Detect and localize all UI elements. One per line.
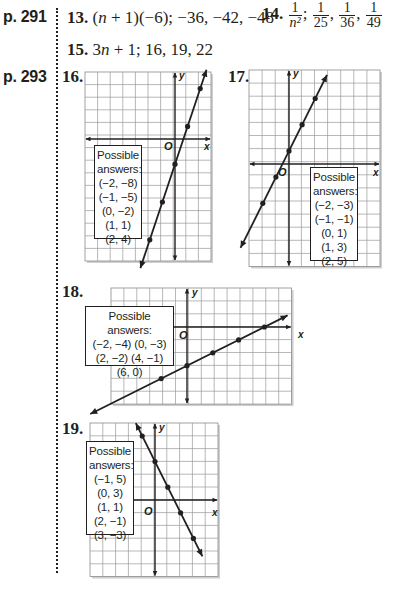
plotted-point (185, 124, 190, 129)
denominator: 25 (313, 16, 329, 30)
box-line: (−1, −1) (313, 212, 355, 226)
box-line: Possible (97, 148, 139, 162)
origin-label: O (278, 166, 287, 178)
plotted-point (178, 510, 183, 515)
denominator: n² (289, 16, 302, 30)
x-axis-label: x (204, 141, 210, 152)
box-line: (−2, −8) (97, 176, 139, 190)
box-line: (2, 4) (97, 232, 139, 246)
numerator: 1 (366, 1, 382, 16)
separator: , (330, 4, 334, 23)
y-axis-label: y (159, 422, 165, 433)
box-line: answers: (313, 184, 355, 198)
page-label-291: p. 291 (3, 8, 47, 26)
graph-number-19: 19. (62, 419, 83, 439)
box-line: (3, −3) (89, 528, 131, 542)
denominator: 49 (366, 16, 382, 30)
box-line: (2, 5) (313, 254, 355, 268)
possible-answers-box: Possible answers: (−1, 5) (0, 3) (1, 1) … (86, 441, 134, 535)
box-line: answers: (97, 162, 139, 176)
box-line: Possible (313, 170, 355, 184)
x-axis-label: x (212, 507, 218, 518)
section-divider (56, 8, 58, 573)
fraction: 149 (366, 1, 382, 30)
plotted-point (236, 337, 241, 342)
possible-answers-box: Possible answers: (−2, −8) (−1, −5) (0, … (94, 145, 142, 239)
expr-part: 3 (93, 40, 102, 59)
graph-number-17: 17. (228, 67, 249, 87)
plotted-point (262, 324, 267, 329)
fraction: 1n² (289, 1, 302, 30)
box-line: (0, 3) (89, 486, 131, 500)
y-axis-label: y (293, 68, 299, 79)
variable-n: n (101, 40, 110, 59)
plotted-point (184, 363, 189, 368)
plotted-point (313, 96, 318, 101)
box-line: Possible (89, 444, 131, 458)
graph-number-18: 18. (62, 282, 83, 302)
plotted-point (198, 86, 203, 91)
expr-part: + 1; 16, 19, 22 (110, 40, 214, 59)
box-line: (2, −1) (89, 514, 131, 528)
box-line: (−2, −3) (313, 198, 355, 212)
expr-part: + 1)(−6); −36, −42, −48 (107, 8, 274, 27)
numerator: 1 (339, 1, 355, 16)
denominator: 36 (339, 16, 355, 30)
box-line: (1, 1) (97, 218, 139, 232)
box-line: (−1, −5) (97, 190, 139, 204)
answer-13: 13. (n + 1)(−6); −36, −42, −48 (67, 8, 274, 28)
separator: , (356, 4, 360, 23)
answer-number: 14. (262, 4, 283, 23)
y-axis-label: y (192, 287, 198, 298)
fraction: 136 (339, 1, 355, 30)
plotted-point (165, 485, 170, 490)
numerator: 1 (313, 1, 329, 16)
page-label-293: p. 293 (3, 68, 47, 86)
plotted-point (152, 459, 157, 464)
possible-answers-box: Possible answers: (−2, −4) (0, −3) (2, −… (85, 306, 174, 366)
origin-label: O (164, 140, 173, 152)
plotted-point (160, 199, 165, 204)
variable-n: n (98, 8, 107, 27)
box-line: (2, −2) (4, −1) (88, 351, 171, 365)
plotted-point (286, 148, 291, 153)
answer-15: 15. 3n + 1; 16, 19, 22 (67, 40, 213, 60)
separator: ; (303, 4, 308, 23)
box-line: Possible answers: (88, 309, 171, 337)
box-line: (6, 0) (88, 365, 171, 379)
x-axis-label: x (298, 329, 304, 340)
y-axis-label: y (179, 70, 185, 81)
answer-number: 13. (67, 8, 88, 27)
plotted-point (210, 350, 215, 355)
plotted-point (147, 237, 152, 242)
box-line: (0, 1) (313, 226, 355, 240)
fraction: 125 (313, 1, 329, 30)
answer-number: 15. (67, 40, 88, 59)
box-line: (1, 1) (89, 500, 131, 514)
box-line: answers: (89, 458, 131, 472)
graph-number-16: 16. (62, 67, 83, 87)
box-line: (−2, −4) (0, −3) (88, 337, 171, 351)
origin-label: O (179, 329, 188, 341)
answer-14: 14. 1n²; 125, 136, 149 (262, 1, 383, 30)
origin-label: O (144, 505, 153, 517)
plotted-point (260, 201, 265, 206)
possible-answers-box: Possible answers: (−2, −3) (−1, −1) (0, … (310, 167, 358, 261)
box-line: (−1, 5) (89, 472, 131, 486)
plotted-point (300, 122, 305, 127)
plotted-point (191, 536, 196, 541)
box-line: (1, 3) (313, 240, 355, 254)
plotted-point (172, 162, 177, 167)
box-line: (0, −2) (97, 204, 139, 218)
numerator: 1 (289, 1, 302, 16)
x-axis-label: x (373, 167, 379, 178)
plotted-point (140, 433, 145, 438)
